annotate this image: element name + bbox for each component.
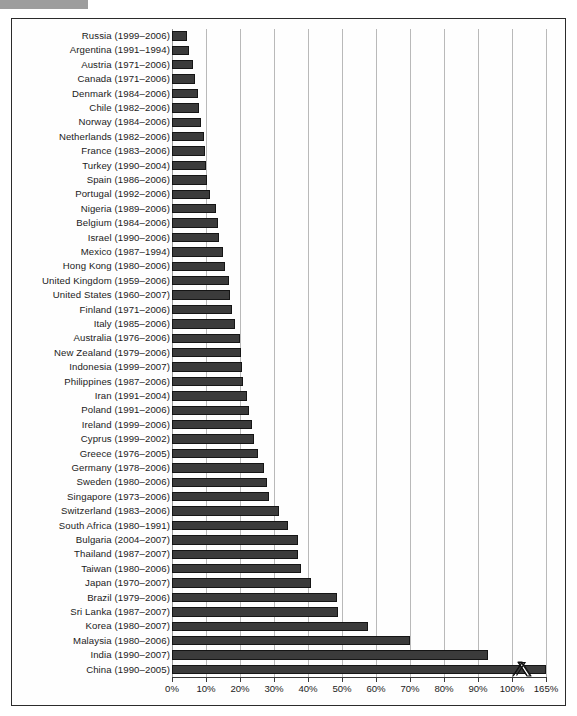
bar	[172, 650, 488, 659]
bar	[172, 362, 242, 371]
bar	[172, 218, 218, 227]
chart-row: Indonesia (1999–2007)	[12, 360, 565, 374]
bar	[172, 319, 235, 328]
bar	[172, 622, 368, 631]
bar	[172, 391, 247, 400]
x-tick	[308, 677, 309, 682]
x-tick	[444, 677, 445, 682]
bar	[172, 564, 301, 573]
x-tick	[478, 677, 479, 682]
chart-row: Belgium (1984–2006)	[12, 216, 565, 230]
chart-row: Hong Kong (1980–2006)	[12, 259, 565, 273]
category-label: France (1983–2006)	[81, 144, 170, 158]
category-label: Netherlands (1982–2006)	[59, 130, 170, 144]
chart-row: Turkey (1990–2004)	[12, 159, 565, 173]
category-label: Russia (1999–2006)	[82, 29, 170, 43]
x-tick-label: 80%	[434, 683, 453, 694]
x-tick-label: 100%	[500, 683, 525, 694]
x-tick	[342, 677, 343, 682]
category-label: United Kingdom (1959–2006)	[42, 274, 170, 288]
chart-row: Denmark (1984–2006)	[12, 87, 565, 101]
chart-row: Netherlands (1982–2006)	[12, 130, 565, 144]
bar	[172, 204, 216, 213]
category-label: Argentina (1991–1994)	[70, 43, 170, 57]
category-label: Ireland (1999–2006)	[82, 418, 170, 432]
category-label: Germany (1978–2006)	[72, 461, 170, 475]
x-tick-label: 60%	[366, 683, 385, 694]
category-label: Cyprus (1999–2002)	[81, 432, 170, 446]
bar	[172, 406, 249, 415]
bar	[172, 478, 267, 487]
x-tick	[206, 677, 207, 682]
bar	[172, 506, 279, 515]
bar	[172, 60, 193, 69]
chart-row: Finland (1971–2006)	[12, 303, 565, 317]
bar	[172, 146, 205, 155]
category-label: Mexico (1987–1994)	[81, 245, 170, 259]
chart-frame: 0%10%20%30%40%50%60%70%80%90%100%165%Rus…	[11, 18, 566, 706]
x-tick-label: 50%	[332, 683, 351, 694]
x-tick	[410, 677, 411, 682]
chart-row: Austria (1971–2006)	[12, 58, 565, 72]
chart-row: Portugal (1992–2006)	[12, 187, 565, 201]
x-tick-label: 10%	[196, 683, 215, 694]
chart-row: Italy (1985–2006)	[12, 317, 565, 331]
bar	[172, 463, 264, 472]
x-tick	[172, 677, 173, 682]
chart-row: China (1990–2005)	[12, 663, 565, 677]
category-label: Australia (1976–2006)	[73, 331, 170, 345]
bar	[172, 161, 206, 170]
bar	[172, 348, 241, 357]
x-tick-label: 20%	[230, 683, 249, 694]
chart-row: Germany (1978–2006)	[12, 461, 565, 475]
chart-row: Cyprus (1999–2002)	[12, 432, 565, 446]
bar	[172, 290, 230, 299]
category-label: Portugal (1992–2006)	[75, 187, 170, 201]
category-label: Austria (1971–2006)	[81, 58, 170, 72]
category-label: United States (1960–2007)	[53, 288, 170, 302]
bar	[172, 492, 269, 501]
category-label: South Africa (1980–1991)	[59, 519, 170, 533]
category-label: Norway (1984–2006)	[79, 115, 170, 129]
bar	[172, 636, 410, 645]
chart-row: France (1983–2006)	[12, 144, 565, 158]
x-tick-label: 30%	[264, 683, 283, 694]
bar	[172, 550, 298, 559]
chart-row: Mexico (1987–1994)	[12, 245, 565, 259]
category-label: Iran (1991–2004)	[95, 389, 170, 403]
bar	[172, 535, 298, 544]
bar	[172, 449, 258, 458]
chart-row: Nigeria (1989–2006)	[12, 202, 565, 216]
x-tick-label: 90%	[468, 683, 487, 694]
x-tick-label: 0%	[165, 683, 179, 694]
bar	[172, 74, 195, 83]
chart-row: Norway (1984–2006)	[12, 115, 565, 129]
chart-row: Spain (1986–2006)	[12, 173, 565, 187]
chart-row: Australia (1976–2006)	[12, 331, 565, 345]
bar	[172, 89, 198, 98]
bar	[172, 103, 199, 112]
chart-row: South Africa (1980–1991)	[12, 519, 565, 533]
chart-row: Singapore (1973–2006)	[12, 490, 565, 504]
chart-row: Sweden (1980–2006)	[12, 475, 565, 489]
chart-row: Greece (1976–2005)	[12, 447, 565, 461]
x-tick-label: 40%	[298, 683, 317, 694]
chart-row: Switzerland (1983–2006)	[12, 504, 565, 518]
category-label: New Zealand (1979–2006)	[54, 346, 170, 360]
category-label: Italy (1985–2006)	[94, 317, 170, 331]
category-label: Israel (1990–2006)	[88, 231, 170, 245]
x-tick	[274, 677, 275, 682]
x-tick	[546, 677, 547, 682]
category-label: Switzerland (1983–2006)	[61, 504, 170, 518]
chart-row: Brazil (1979–2006)	[12, 591, 565, 605]
chart-row: New Zealand (1979–2006)	[12, 346, 565, 360]
category-label: Brazil (1979–2006)	[87, 591, 170, 605]
bar	[172, 190, 210, 199]
chart-row: Israel (1990–2006)	[12, 231, 565, 245]
category-label: Thailand (1987–2007)	[74, 547, 170, 561]
bar	[172, 262, 225, 271]
bar	[172, 521, 288, 530]
category-label: Finland (1971–2006)	[80, 303, 170, 317]
chart-row: Philippines (1987–2006)	[12, 375, 565, 389]
bar	[172, 607, 338, 616]
